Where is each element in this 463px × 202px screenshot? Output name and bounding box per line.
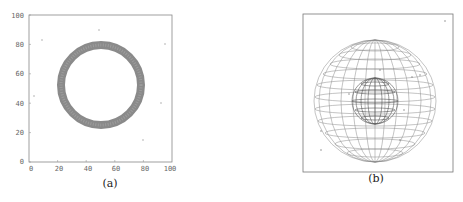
svg-text:100: 100 [11,12,24,20]
svg-text:0: 0 [20,158,24,166]
y-tick-labels-a: 0 20 40 60 80 100 [11,12,24,166]
x-tick-labels-a: 0 20 40 60 80 100 [29,165,176,173]
svg-text:60: 60 [16,70,24,78]
svg-text:80: 80 [16,41,24,49]
panel-a: 0 20 40 60 80 100 0 20 40 60 80 100 (a) [11,12,176,190]
annulus [61,45,141,125]
inner-sphere [352,78,398,124]
caption-a: (a) [102,177,117,190]
plot-a-frame [29,15,172,162]
svg-text:40: 40 [16,100,24,108]
svg-text:0: 0 [29,165,33,173]
svg-text:20: 20 [16,129,24,137]
svg-text:80: 80 [141,165,149,173]
panel-b: (b) [303,14,453,185]
figure: 0 20 40 60 80 100 0 20 40 60 80 100 (a) [0,0,463,202]
svg-text:100: 100 [164,165,177,173]
svg-text:40: 40 [84,165,92,173]
svg-text:60: 60 [112,165,120,173]
svg-text:20: 20 [55,165,63,173]
caption-b: (b) [368,172,384,185]
